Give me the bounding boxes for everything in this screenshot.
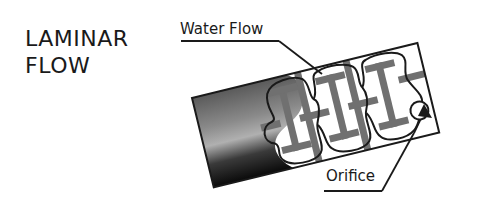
- laminar-flow-diagram: [0, 0, 483, 207]
- water-flow-leader-line: [181, 41, 322, 74]
- emitter-body: [192, 43, 439, 187]
